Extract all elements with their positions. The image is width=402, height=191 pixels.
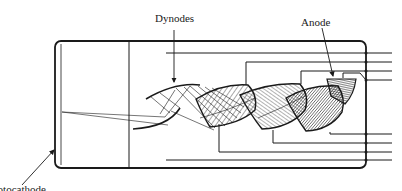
photocathode-arrow: [22, 150, 54, 185]
dynodes-label: Dynodes: [155, 13, 194, 24]
diagram-canvas: [0, 0, 402, 191]
anode-label: Anode: [301, 17, 330, 28]
pmt-diagram: Dynodes Anode Photocathode: [0, 0, 402, 191]
anode-arrow: [322, 28, 333, 76]
photocathode-label: Photocathode: [0, 184, 46, 191]
dynode-1: [133, 85, 200, 129]
